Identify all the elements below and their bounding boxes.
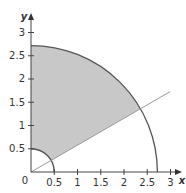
shaded-region [31, 46, 141, 161]
origin-label: 0 [22, 175, 28, 186]
y-tick-label: 0.5 [9, 143, 25, 154]
y-tick-label: 3 [19, 27, 25, 38]
x-tick-label: 1 [74, 177, 80, 188]
x-axis-label: x [178, 175, 186, 186]
x-tick-label: 3 [167, 177, 173, 188]
y-axis-label: y [21, 11, 28, 22]
y-axis-arrow-icon [28, 13, 34, 20]
x-tick-label: 2 [121, 177, 127, 188]
polar-region-diagram: 0.5 1 1.5 2 2.5 3 0.5 1 1.5 2 2.5 3 0 x … [0, 0, 186, 193]
y-tick-label: 2 [19, 73, 25, 84]
y-tick-label: 2.5 [9, 50, 25, 61]
y-tick-label: 1 [19, 120, 25, 131]
x-tick-label: 2.5 [139, 177, 155, 188]
x-tick-label: 1.5 [93, 177, 109, 188]
y-tick-label: 1.5 [9, 97, 25, 108]
x-tick-label: 0.5 [46, 177, 62, 188]
